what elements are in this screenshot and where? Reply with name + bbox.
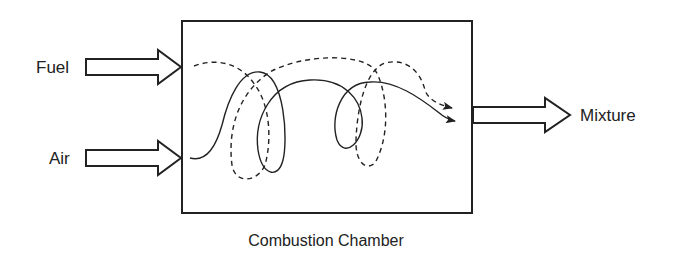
mixture-label: Mixture (580, 106, 636, 125)
fuel-flow-path (194, 58, 452, 179)
chamber-label: Combustion Chamber (248, 232, 404, 249)
mixture-arrow-icon (473, 98, 570, 132)
air-label: Air (49, 149, 70, 168)
air-flow-path (190, 72, 455, 172)
air-arrow-icon (86, 141, 181, 175)
combustion-diagram: Fuel Air Mixture Combustion Chamber (0, 0, 678, 255)
combustion-chamber-box (182, 21, 472, 213)
fuel-arrow-icon (86, 50, 181, 84)
fuel-label: Fuel (36, 58, 69, 77)
